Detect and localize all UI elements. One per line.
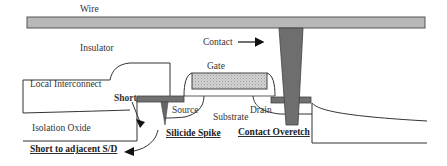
contact-overetch-label: Contact Overetch (238, 127, 311, 137)
wire-bar (27, 17, 425, 28)
right-isolation-top (312, 103, 427, 121)
gate-spacer-left (184, 73, 192, 96)
source-silicide (137, 96, 184, 102)
wire-label: Wire (80, 4, 99, 14)
short-label: Short (114, 93, 138, 103)
isolation-oxide-outline (23, 97, 137, 141)
local-interconnect-bottom (23, 110, 130, 113)
gate-label: Gate (207, 61, 225, 71)
silicide-spike-label: Silicide Spike (166, 128, 221, 138)
local-interconnect-label: Local Interconnect (30, 79, 102, 89)
cross-section-diagram: Wire Insulator Contact Local Interconnec… (0, 0, 447, 166)
insulator-label: Insulator (80, 43, 115, 53)
isolation-oxide-label: Isolation Oxide (32, 123, 91, 133)
short-to-adjacent-label: Short to adjacent S/D (30, 144, 117, 154)
short-adjacent-arrow (134, 130, 158, 151)
gate (192, 73, 267, 89)
source-label: Source (172, 105, 198, 115)
short-adjacent-arrowhead (124, 147, 134, 156)
silicide-spike (161, 102, 168, 125)
right-isolation-outline (312, 103, 427, 143)
contact-plug (279, 28, 303, 125)
gate-spacer-right (267, 73, 275, 96)
drain-label: Drain (250, 105, 272, 115)
contact-label: Contact (203, 37, 233, 47)
substrate-label: Substrate (213, 112, 248, 122)
